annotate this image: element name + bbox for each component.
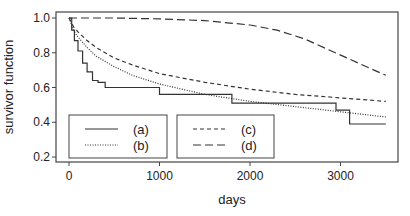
series-c — [69, 18, 386, 101]
y-tick-label: 0.4 — [33, 115, 50, 129]
series-group — [69, 18, 386, 124]
legend-label-b: (b) — [133, 138, 149, 153]
series-a — [69, 18, 386, 124]
legend-label-d: (d) — [241, 138, 257, 153]
series-d — [69, 18, 386, 75]
y-axis: 0.20.40.60.81.0 — [33, 11, 56, 164]
survival-chart: 0.20.40.60.81.0 0100020003000 days survi… — [0, 0, 410, 216]
x-tick-label: 3000 — [327, 169, 354, 183]
x-tick-label: 2000 — [237, 169, 264, 183]
x-tick-label: 1000 — [146, 169, 173, 183]
y-tick-label: 0.2 — [33, 150, 50, 164]
legend-label-c: (c) — [241, 122, 256, 137]
y-axis-label: survivor function — [1, 40, 16, 135]
x-tick-label: 0 — [66, 169, 73, 183]
legend-box-1: (a) (b) — [69, 115, 167, 158]
legend-label-a: (a) — [133, 122, 149, 137]
y-tick-label: 0.6 — [33, 81, 50, 95]
x-axis: 0100020003000 — [66, 162, 355, 183]
series-b — [69, 18, 386, 117]
y-tick-label: 1.0 — [33, 11, 50, 25]
y-tick-label: 0.8 — [33, 46, 50, 60]
x-axis-label: days — [218, 192, 246, 207]
legend-box-2: (c) (d) — [177, 115, 274, 158]
